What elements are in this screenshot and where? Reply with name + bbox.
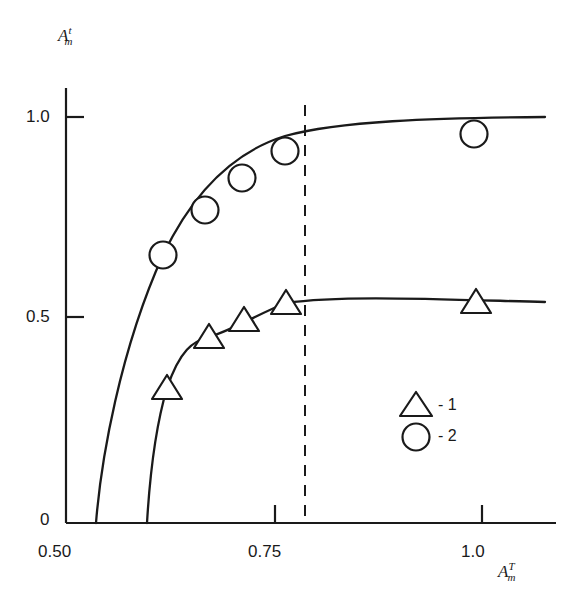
x-axis-title-base: A bbox=[498, 562, 508, 581]
data-point-circle bbox=[461, 121, 488, 148]
data-point-circle bbox=[192, 197, 219, 224]
legend-entry-label-2: - 2 bbox=[438, 427, 457, 445]
legend-entry-label-1: - 1 bbox=[438, 396, 457, 414]
data-point-circle bbox=[150, 242, 177, 269]
data-point-triangle bbox=[194, 324, 224, 348]
markers-series-1 bbox=[152, 289, 491, 399]
x-axis-title: ATm bbox=[498, 560, 515, 583]
x-axis-title-subscript: m bbox=[508, 571, 516, 583]
legend-circle-icon bbox=[403, 424, 430, 451]
x-tick-label-0.50: 0.50 bbox=[38, 542, 71, 562]
data-point-circle bbox=[229, 165, 256, 192]
figure-container: Atm ATm 1.0 0.5 0 0.50 0.75 1.0 - 1 - 2 bbox=[0, 0, 570, 603]
plot-canvas bbox=[0, 0, 570, 603]
data-point-triangle bbox=[229, 307, 259, 331]
legend-markers bbox=[400, 392, 432, 451]
y-tick-label-0.5: 0.5 bbox=[26, 307, 50, 327]
x-tick-label-0.75: 0.75 bbox=[248, 542, 281, 562]
legend-triangle-icon bbox=[400, 392, 432, 416]
y-tick-label-0: 0 bbox=[40, 510, 49, 530]
y-axis-title-subscript: m bbox=[64, 35, 72, 47]
x-tick-label-1.0: 1.0 bbox=[461, 542, 485, 562]
y-tick-label-1.0: 1.0 bbox=[26, 107, 50, 127]
y-axis-title: Atm bbox=[58, 24, 72, 47]
data-point-circle bbox=[272, 138, 299, 165]
data-point-triangle bbox=[152, 375, 182, 399]
curve-series-2 bbox=[96, 117, 545, 523]
